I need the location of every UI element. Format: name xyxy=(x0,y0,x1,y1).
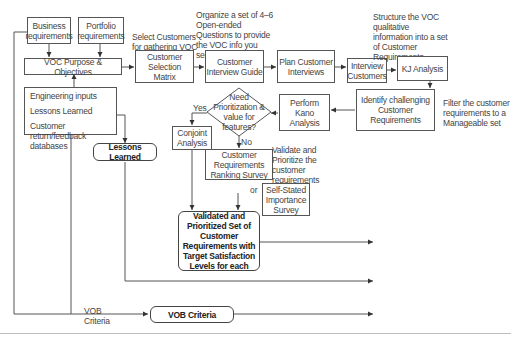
validate-prioritize-note: Validate and Prioritize the customer req… xyxy=(272,145,342,185)
conjoint-analysis-box: Conjoint Analysis xyxy=(172,126,212,150)
customer-selection-matrix-box: Customer Selection Matrix xyxy=(135,50,194,83)
vob-criteria-label: VOB Criteria xyxy=(84,306,114,326)
voc-flow-diagram: Business requirements Portfolio requirem… xyxy=(0,0,511,342)
validated-set-box: Validated and Prioritized Set of Custome… xyxy=(178,211,260,271)
kj-analysis-box: KJ Analysis xyxy=(397,56,448,81)
inputs-list-box: Engineering inputs Lessons Learned Custo… xyxy=(24,87,117,135)
decision-no-label: No xyxy=(241,137,252,147)
perform-kano-box: Perform Kano Analysis xyxy=(279,94,330,131)
portfolio-requirements-box: Portfolio requirements xyxy=(78,17,124,44)
self-stated-survey-box: Self-Stated Importance Survey xyxy=(262,183,310,216)
voc-purpose-box: VOC Purpose & Objectives xyxy=(24,58,122,75)
customer-interview-guide-box: Customer Interview Guide xyxy=(205,50,264,83)
decision-question: Need Prioritization & value for features… xyxy=(212,92,266,132)
input-item: Lessons Learned xyxy=(30,106,111,116)
bottom-divider xyxy=(0,333,511,334)
vob-criteria-box: VOB Criteria xyxy=(150,306,234,323)
lessons-learned-box: Lessons Learned xyxy=(93,143,157,161)
filter-requirements-note: Filter the customer requirements to a Ma… xyxy=(443,98,511,128)
business-requirements-box: Business requirements xyxy=(27,17,71,44)
identify-challenging-box: Identify challenging Customer Requiremen… xyxy=(356,89,435,131)
ranking-survey-box: Customer Requirements Ranking Survey xyxy=(205,149,273,180)
plan-customer-interviews-box: Plan Customer Interviews xyxy=(277,50,335,83)
input-item: Engineering inputs xyxy=(30,91,111,101)
or-label: or xyxy=(250,185,258,195)
decision-yes-label: Yes xyxy=(193,103,207,113)
structure-voc-note: Structure the VOC qualitative informatio… xyxy=(373,12,451,62)
